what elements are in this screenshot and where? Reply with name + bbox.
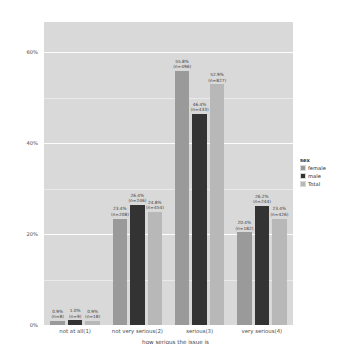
x-axis-tick-label: not very serious(2)	[112, 328, 163, 334]
bar-value-pct: 55.8%	[175, 59, 189, 64]
bar-male-4[interactable]	[255, 206, 270, 325]
legend-swatch-icon	[300, 165, 306, 171]
bar-value-pct: 26.4%	[131, 193, 145, 198]
bar-value-pct: 0.9%	[52, 309, 63, 314]
bar-label: 26.4%(n=246)	[128, 193, 146, 204]
legend-item-label: female	[308, 165, 326, 171]
legend: sex femalemaleTotal	[300, 157, 348, 189]
bar-label: 0.9%(n=8)	[51, 309, 63, 320]
bar-total-1[interactable]	[85, 321, 100, 325]
bar-value-pct: 23.4%	[273, 206, 287, 211]
bar-value-pct: 52.9%	[210, 72, 224, 77]
bar-value-count: (n=496)	[173, 64, 191, 69]
legend-item-female[interactable]: female	[300, 165, 348, 172]
legend-entries: femalemaleTotal	[300, 165, 348, 188]
bar-value-pct: 26.2%	[255, 194, 269, 199]
bar-female-4[interactable]	[237, 232, 252, 325]
y-axis-tick-label: 20%	[0, 231, 38, 237]
legend-item-label: male	[308, 173, 321, 179]
bar-label: 26.2%(n=244)	[253, 194, 271, 205]
legend-item-total[interactable]: Total	[300, 181, 348, 188]
legend-title: sex	[300, 157, 348, 163]
bar-total-4[interactable]	[272, 219, 287, 325]
bar-value-count: (n=182)	[235, 226, 253, 231]
bar-group: 0.9%(n=8)1.0%(n=9)0.9%(n=18)	[50, 22, 100, 325]
bar-value-count: (n=8)	[51, 314, 63, 319]
bar-value-count: (n=433)	[191, 107, 209, 112]
bar-female-2[interactable]	[113, 219, 128, 325]
bar-label: 1.0%(n=9)	[69, 308, 81, 319]
bar-value-count: (n=426)	[270, 212, 288, 217]
bar-value-count: (n=208)	[111, 212, 129, 217]
bar-value-count: (n=827)	[208, 78, 226, 83]
bar-value-pct: 46.4%	[193, 102, 207, 107]
bar-label: 23.4%(n=208)	[111, 206, 129, 217]
bar-female-3[interactable]	[175, 71, 190, 325]
bar-value-pct: 1.0%	[70, 308, 81, 313]
bar-value-pct: 24.8%	[148, 200, 162, 205]
bar-male-1[interactable]	[68, 320, 83, 325]
bar-value-pct: 20.4%	[238, 220, 252, 225]
x-axis-tick-label: very serious(4)	[242, 328, 283, 334]
x-axis-label: how serious the issue is	[0, 339, 351, 345]
bar-group: 55.8%(n=496)46.4%(n=433)52.9%(n=827)	[175, 22, 225, 325]
legend-item-label: Total	[308, 181, 320, 187]
bar-male-3[interactable]	[192, 114, 207, 325]
x-axis-tick-label: serious(3)	[186, 328, 213, 334]
bar-group: 23.4%(n=208)26.4%(n=246)24.8%(n=454)	[113, 22, 163, 325]
bar-value-count: (n=9)	[69, 314, 81, 319]
bar-label: 0.9%(n=18)	[85, 309, 100, 320]
bar-value-pct: 0.9%	[87, 309, 98, 314]
bar-value-count: (n=246)	[128, 198, 146, 203]
legend-swatch-icon	[300, 181, 306, 187]
legend-swatch-icon	[300, 173, 306, 179]
bar-label: 20.4%(n=182)	[235, 220, 253, 231]
y-axis-tick-label: 40%	[0, 140, 38, 146]
bar-group: 20.4%(n=182)26.2%(n=244)23.4%(n=426)	[237, 22, 287, 325]
bar-label: 52.9%(n=827)	[208, 72, 226, 83]
bar-label: 23.4%(n=426)	[270, 206, 288, 217]
bar-chart: 0%20%40%60% 0.9%(n=8)1.0%(n=9)0.9%(n=18)…	[0, 0, 351, 356]
x-axis-tick-label: not at all(1)	[59, 328, 91, 334]
y-axis-tick-label: 60%	[0, 49, 38, 55]
bar-value-count: (n=244)	[253, 199, 271, 204]
bar-value-pct: 23.4%	[113, 206, 127, 211]
bar-value-count: (n=454)	[146, 205, 164, 210]
bar-male-2[interactable]	[130, 205, 145, 325]
bar-female-1[interactable]	[50, 321, 65, 325]
legend-item-male[interactable]: male	[300, 173, 348, 180]
bar-value-count: (n=18)	[85, 314, 100, 319]
bar-total-3[interactable]	[210, 84, 225, 325]
bar-label: 24.8%(n=454)	[146, 200, 164, 211]
bar-total-2[interactable]	[148, 212, 163, 325]
bar-label: 55.8%(n=496)	[173, 59, 191, 70]
bar-label: 46.4%(n=433)	[191, 102, 209, 113]
y-axis-tick-label: 0%	[0, 322, 38, 328]
